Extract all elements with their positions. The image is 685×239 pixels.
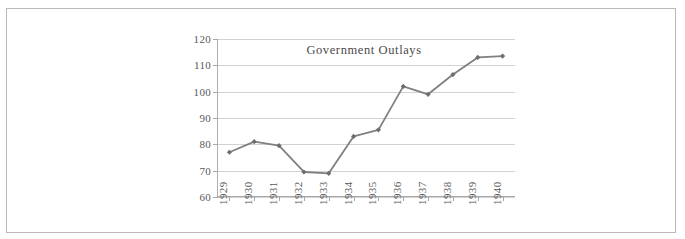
data-series-group	[217, 39, 515, 197]
y-axis-label-70: 70	[199, 165, 211, 176]
page-root: 60708090100110120 1929193019311932193319…	[0, 0, 685, 239]
y-axis-label-60: 60	[199, 192, 211, 203]
y-axis-label-80: 80	[199, 139, 211, 150]
y-axis-label-90: 90	[199, 113, 211, 124]
y-axis-label-100: 100	[194, 86, 211, 97]
line-chart: 60708090100110120 1929193019311932193319…	[193, 27, 533, 239]
document-frame: 60708090100110120 1929193019311932193319…	[6, 8, 676, 233]
series-markers	[227, 54, 505, 176]
data-point-1930	[252, 139, 257, 144]
y-axis-label-120: 120	[194, 34, 211, 45]
y-axis-label-110: 110	[194, 60, 211, 71]
series-line	[229, 56, 502, 173]
data-point-1940	[500, 54, 505, 59]
data-point-1929	[227, 150, 232, 155]
plot-area: 60708090100110120 1929193019311932193319…	[217, 39, 515, 197]
chart-title: Government Outlays	[306, 43, 421, 58]
